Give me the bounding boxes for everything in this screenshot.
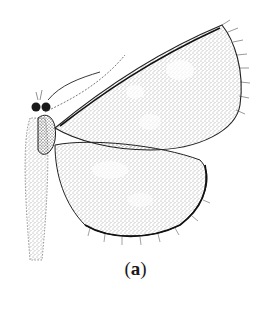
forewing <box>55 20 250 150</box>
label-paren-close: ) <box>140 258 146 279</box>
moth-body <box>25 115 55 260</box>
label-letter: a <box>131 258 141 279</box>
hindwing <box>55 142 210 245</box>
panel-label: (a) <box>0 258 271 280</box>
